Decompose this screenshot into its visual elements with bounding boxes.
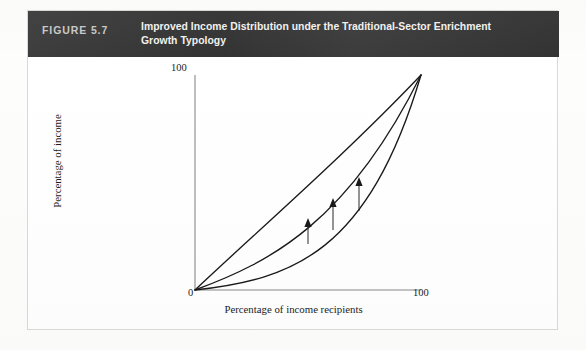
x-tick-label-0: 0 <box>188 287 193 298</box>
figure-header-band: FIGURE 5.7 Improved Income Distribution … <box>28 11 559 57</box>
x-axis-title: Percentage of income recipients <box>28 303 559 315</box>
figure-title: Improved Income Distribution under the T… <box>141 20 541 47</box>
chart-plot-area: 100 0 100 Percentage of income recipient… <box>28 57 559 330</box>
figure-title-line-2: Growth Typology <box>141 34 541 48</box>
lorenz-curve-chart <box>28 57 559 330</box>
figure-container: FIGURE 5.7 Improved Income Distribution … <box>27 10 558 330</box>
y-tick-label-100: 100 <box>171 62 187 73</box>
figure-number-label: FIGURE 5.7 <box>42 24 108 36</box>
page-root: FIGURE 5.7 Improved Income Distribution … <box>0 0 586 350</box>
y-axis-title: Percentage of income <box>51 96 63 226</box>
figure-title-line-1: Improved Income Distribution under the T… <box>141 20 541 34</box>
x-tick-label-100: 100 <box>413 287 429 298</box>
